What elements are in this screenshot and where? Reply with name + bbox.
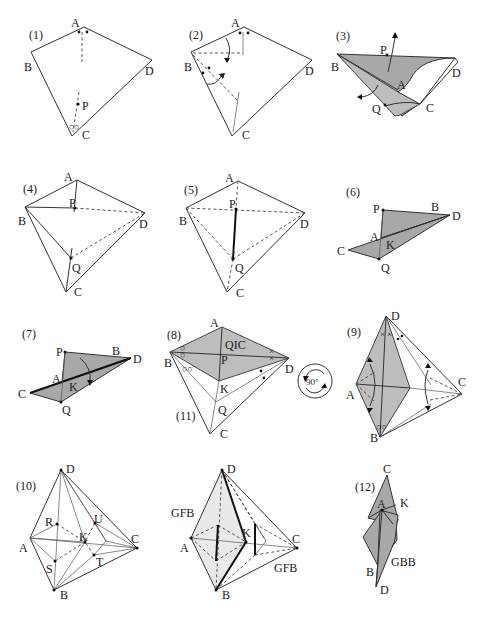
vertex-d: D: [227, 462, 236, 476]
region-qic: QIC: [225, 338, 246, 352]
vertex-c: C: [18, 387, 26, 401]
svg-text:○: ○: [74, 122, 79, 132]
vertex-d: D: [300, 217, 309, 231]
step-8-label: (8): [167, 328, 181, 342]
step-12-diagram: (12) C A K B GBB D: [355, 462, 416, 597]
vertex-s: S: [46, 562, 53, 576]
vertex-c: C: [131, 532, 139, 546]
region-gbb: GBB: [391, 555, 416, 569]
vertex-b: B: [112, 344, 120, 358]
vertex-p: P: [373, 202, 380, 216]
vertex-d: D: [145, 64, 154, 78]
vertex-b: B: [18, 214, 26, 228]
vertex-k: K: [220, 382, 229, 396]
step-8-diagram: ○ ○ ○○ × × (8) (11) A QIC B P D K Q C: [164, 316, 294, 441]
vertex-c: C: [82, 128, 90, 142]
vertex-d: D: [66, 462, 75, 476]
vertex-c: C: [337, 244, 345, 258]
vertex-b: B: [24, 60, 32, 74]
origami-diagram: ○ ○ (1) A B C D P (2) A B C D: [0, 0, 484, 620]
vertex-a: A: [19, 541, 28, 555]
rotate-90-icon: 90°: [298, 364, 332, 398]
svg-text:○: ○: [180, 350, 185, 360]
vertex-c: C: [292, 532, 300, 546]
step-1-label: (1): [29, 28, 43, 42]
step-11-label: (11): [176, 409, 196, 423]
vertex-c: C: [458, 375, 466, 389]
vertex-a: A: [52, 372, 61, 386]
vertex-c: C: [236, 286, 244, 300]
region-gfb-left: GFB: [171, 506, 194, 520]
vertex-q: Q: [381, 261, 390, 275]
vertex-c: C: [242, 128, 250, 142]
step-10-label: (10): [16, 479, 36, 493]
vertex-b: B: [184, 60, 192, 74]
step-5-label: (5): [184, 183, 198, 197]
vertex-d: D: [285, 362, 294, 376]
vertex-a: A: [397, 78, 406, 92]
step-4-label: (4): [23, 182, 37, 196]
vertex-k: K: [386, 238, 395, 252]
vertex-a: A: [71, 16, 80, 30]
svg-text:×: ×: [380, 329, 385, 339]
step-12-label: (12): [355, 480, 375, 494]
vertex-p: P: [221, 353, 228, 367]
step-3-label: (3): [336, 29, 350, 43]
step-10-diagram: (10) D R U A K C S T B: [16, 462, 139, 602]
vertex-c: C: [426, 101, 434, 115]
vertex-t: T: [96, 555, 104, 569]
step-9-diagram: × × ○○ (9) D A C B: [346, 309, 466, 445]
vertex-b: B: [179, 214, 187, 228]
vertex-d: D: [452, 209, 461, 223]
svg-text:×: ×: [387, 329, 392, 339]
vertex-p: P: [82, 99, 89, 113]
vertex-d: D: [139, 217, 148, 231]
vertex-a: A: [180, 541, 189, 555]
vertex-u: U: [94, 512, 103, 526]
step-2-diagram: (2) A B C D: [184, 16, 314, 142]
step-6-diagram: (6) P B D A K C Q: [337, 185, 461, 275]
vertex-q: Q: [218, 403, 227, 417]
region-gfb-right: GFB: [274, 561, 297, 575]
vertex-k: K: [242, 526, 251, 540]
vertex-b: B: [370, 431, 378, 445]
vertex-k: K: [400, 496, 409, 510]
vertex-b: B: [366, 565, 374, 579]
vertex-c: C: [74, 285, 82, 299]
step-9-label: (9): [347, 325, 361, 339]
vertex-p: P: [380, 43, 387, 57]
vertex-q: Q: [235, 261, 244, 275]
vertex-k: K: [69, 380, 78, 394]
vertex-k: K: [79, 530, 88, 544]
vertex-a: A: [370, 230, 379, 244]
vertex-a: A: [225, 171, 234, 185]
step-2-label: (2): [189, 28, 203, 42]
vertex-a: A: [64, 170, 73, 184]
svg-text:×: ×: [269, 353, 274, 363]
vertex-c: C: [383, 462, 391, 476]
vertex-b: B: [431, 200, 439, 214]
vertex-b: B: [60, 588, 68, 602]
vertex-q: Q: [372, 102, 381, 116]
vertex-d: D: [133, 352, 142, 366]
vertex-p: P: [56, 345, 63, 359]
step-3-diagram: (3) B P A Q C D: [331, 29, 461, 116]
vertex-b: B: [331, 60, 339, 74]
step-7-diagram: (7) P B D A K C Q: [18, 327, 142, 417]
vertex-q: Q: [62, 403, 71, 417]
vertex-a: A: [210, 316, 219, 330]
vertex-d: D: [305, 64, 314, 78]
step-6-label: (6): [346, 185, 360, 199]
step-5-diagram: (5) A B P D Q C: [179, 171, 309, 300]
svg-text:○○: ○○: [182, 364, 193, 374]
step-7-label: (7): [22, 327, 36, 341]
vertex-a: A: [346, 388, 355, 402]
vertex-d: D: [452, 66, 461, 80]
step-4-diagram: (4) A B P D Q C: [18, 170, 148, 299]
vertex-d: D: [380, 583, 389, 597]
vertex-p: P: [229, 197, 236, 211]
vertex-r: R: [45, 515, 53, 529]
step-1-diagram: ○ ○ (1) A B C D P: [24, 16, 154, 142]
step-11-diagram: D GFB A K C GFB B: [171, 462, 300, 602]
vertex-d: D: [391, 309, 400, 323]
